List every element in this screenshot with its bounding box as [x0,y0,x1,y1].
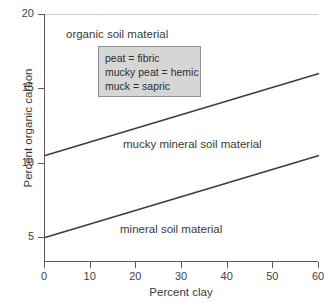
definition-legend-box: peat = fibric mucky peat = hemic muck = … [98,46,201,97]
x-tick-label-40: 40 [212,270,242,282]
region-label-organic-soil-material: organic soil material [66,28,168,41]
x-tick-60 [318,262,319,268]
y-axis-title: Percent organic carbon [22,48,34,208]
y-tick-label-5: 5 [8,231,34,242]
soil-material-classification-chart: 5101520 0102030405060 organic soil mater… [0,0,333,303]
x-tick-label-50: 50 [257,270,287,282]
y-tick-label-20: 20 [8,8,34,19]
x-tick-label-30: 30 [166,270,196,282]
region-label-mineral-soil-material: mineral soil material [120,223,222,236]
x-tick-0 [44,262,45,268]
x-tick-label-60: 60 [303,270,333,282]
x-tick-50 [272,262,273,268]
definition-line-mucky-peat: mucky peat = hemic [105,65,200,79]
x-tick-10 [90,262,91,268]
x-axis-title: Percent clay [44,286,318,298]
x-tick-40 [227,262,228,268]
x-tick-label-10: 10 [75,270,105,282]
x-tick-label-0: 0 [29,270,59,282]
x-tick-label-20: 20 [120,270,150,282]
x-tick-20 [135,262,136,268]
x-tick-30 [181,262,182,268]
definition-line-muck: muck = sapric [105,79,200,93]
region-label-mucky-mineral-soil-material: mucky mineral soil material [123,138,262,151]
definition-line-peat: peat = fibric [105,51,200,65]
